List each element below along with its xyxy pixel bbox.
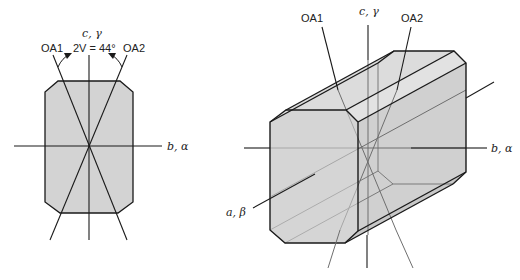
optic-orientation-diagram: c, γ OA1 2V = 44° OA2 b, α (0, 0, 520, 280)
oa1-label: OA1 (41, 42, 63, 54)
b-axis-label: b, α (167, 140, 189, 153)
oa2-label: OA2 (123, 42, 145, 54)
front-face (270, 110, 358, 243)
c-axis-label-3d: c, γ (359, 5, 379, 18)
optic-axis-1-top (322, 27, 338, 90)
2v-angle-label: 2V = 44° (73, 42, 116, 54)
arrowhead-left-icon (64, 53, 72, 59)
b-axis-label-3d: b, α (491, 142, 513, 155)
oa1-label-3d: OA1 (301, 12, 323, 24)
a-axis-line-back (466, 82, 494, 98)
optic-axis-1-bottom (396, 230, 413, 268)
left-crystal-section: c, γ OA1 2V = 44° OA2 b, α (14, 27, 189, 240)
oa2-label-3d: OA2 (401, 12, 423, 24)
a-axis-label-3d: a, β (226, 206, 246, 219)
c-axis-label: c, γ (82, 27, 102, 40)
right-crystal-3d: OA1 c, γ OA2 b, α a, β (226, 5, 513, 268)
